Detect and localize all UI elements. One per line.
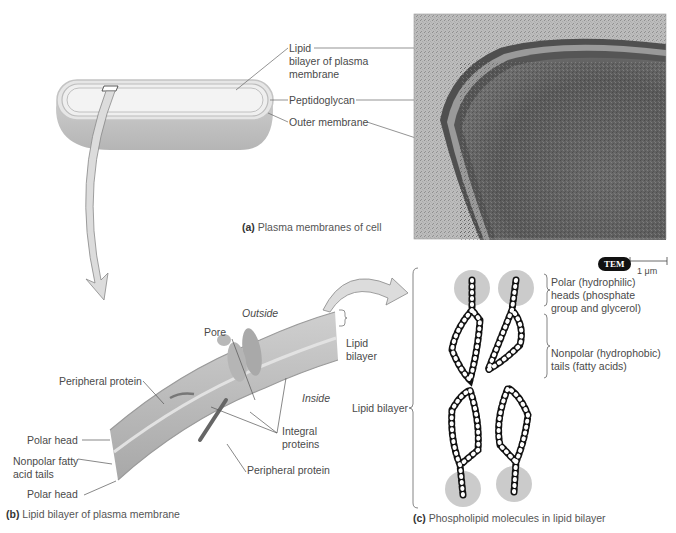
label-line: Integral	[282, 425, 319, 438]
label-nonpolar-hydrophobic-tails: Nonpolar (hydrophobic) tails (fatty acid…	[551, 347, 661, 373]
brace-polar-heads	[544, 274, 550, 306]
caption-b: (b) Lipid bilayer of plasma membrane	[6, 508, 180, 520]
label-line: bilayer of plasma	[289, 55, 399, 68]
label-line: Nonpolar (hydrophobic)	[551, 347, 661, 360]
label-outside: Outside	[242, 307, 278, 320]
label-line: Nonpolar fatty	[13, 455, 78, 468]
label-line: group and glycerol)	[551, 302, 641, 315]
brace-lipid-bilayer-c	[409, 268, 418, 508]
label-line: Polar (hydrophilic)	[551, 276, 641, 289]
tem-badge: TEM	[598, 257, 631, 271]
caption-letter: (c)	[413, 512, 426, 524]
label-lipid-bilayer-b: Lipid bilayer	[346, 337, 377, 363]
caption-letter: (b)	[6, 508, 19, 520]
label-integral-proteins: Integral proteins	[282, 425, 319, 451]
label-line: membrane	[289, 68, 399, 81]
label-line: bilayer	[346, 350, 377, 363]
label-line: Lipid	[289, 42, 399, 55]
caption-text: Plasma membranes of cell	[258, 221, 382, 233]
phospholipid-molecules	[445, 270, 534, 507]
label-peripheral-protein-bottom: Peripheral protein	[247, 464, 330, 477]
label-lipid-bilayer-c: Lipid bilayer	[352, 402, 408, 415]
label-line: Lipid	[346, 337, 377, 350]
label-lipid-bilayer-plasma-membrane: Lipid bilayer of plasma membrane	[289, 42, 399, 81]
label-pore: Pore	[204, 326, 226, 339]
label-polar-head-bottom: Polar head	[27, 488, 78, 501]
caption-text: Phospholipid molecules in lipid bilayer	[429, 512, 606, 524]
zoom-arrow-b-to-c	[323, 278, 408, 312]
label-nonpolar-fatty-acid-tails: Nonpolar fatty acid tails	[13, 455, 78, 481]
label-peptidoglycan: Peptidoglycan	[289, 94, 355, 107]
caption-a: (a) Plasma membranes of cell	[242, 221, 381, 233]
label-line: acid tails	[13, 468, 78, 481]
caption-letter: (a)	[242, 221, 255, 233]
label-line: proteins	[282, 438, 319, 451]
caption-c: (c) Phospholipid molecules in lipid bila…	[413, 512, 606, 524]
scale-bar	[630, 257, 667, 265]
label-polar-head-top: Polar head	[27, 434, 78, 447]
label-line: tails (fatty acids)	[551, 360, 661, 373]
label-line: heads (phosphate	[551, 289, 641, 302]
caption-text: Lipid bilayer of plasma membrane	[22, 508, 180, 520]
label-inside: Inside	[302, 392, 330, 405]
brace-nonpolar-tails	[544, 314, 550, 378]
bacterial-cell	[56, 80, 273, 150]
tem-micrograph	[414, 14, 666, 240]
label-polar-hydrophilic-heads: Polar (hydrophilic) heads (phosphate gro…	[551, 276, 641, 315]
brace-lipid-bilayer-b	[339, 310, 347, 326]
label-peripheral-protein-top: Peripheral protein	[59, 375, 142, 388]
label-outer-membrane: Outer membrane	[289, 116, 368, 129]
